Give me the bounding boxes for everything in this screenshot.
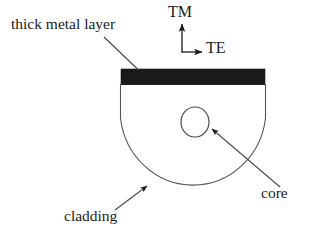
thick-metal-layer-leader-line <box>104 37 139 70</box>
figure-canvas: thick metal layer TM TE core cladding <box>0 0 315 241</box>
cladding-leader-line <box>115 186 147 210</box>
thick-metal-layer-label: thick metal layer <box>11 16 115 32</box>
core-circle <box>181 107 209 137</box>
core-label: core <box>261 185 288 201</box>
thick-metal-layer-bar <box>121 69 265 85</box>
te-axis-label: TE <box>206 40 226 56</box>
cladding-label: cladding <box>64 208 117 224</box>
diagram-graphics <box>0 0 315 241</box>
tm-axis-label: TM <box>168 4 192 20</box>
